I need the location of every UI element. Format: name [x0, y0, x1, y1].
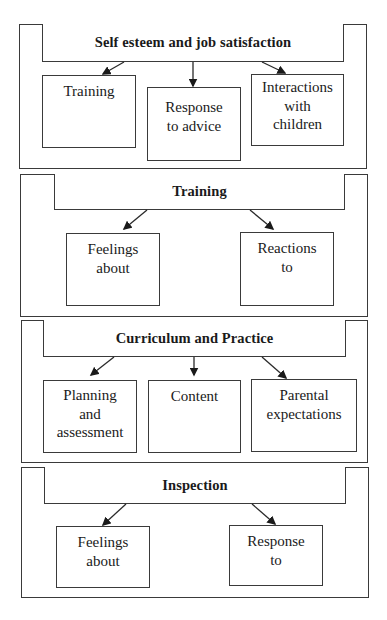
panel-training-title: Training	[172, 183, 227, 200]
node-parental-expectations: Parental expectations	[251, 379, 357, 452]
node-label: with	[252, 97, 343, 116]
node-label: Response	[148, 98, 240, 117]
node-label: Interactions	[252, 78, 343, 97]
node-label: assessment	[44, 423, 136, 442]
panel-training-header: Training	[54, 174, 345, 210]
panel-curriculum-header: Curriculum and Practice	[43, 320, 346, 357]
node-label: Response	[230, 532, 322, 551]
node-label: Feelings	[57, 533, 149, 552]
node-label: Training	[43, 82, 135, 101]
panel-self-esteem-header: Self esteem and job satisfaction	[42, 24, 344, 62]
node-label: Planning	[44, 386, 136, 405]
node-planning-and-assessment: Planning and assessment	[43, 380, 137, 453]
node-label: to	[241, 258, 333, 277]
panel-inspection-title: Inspection	[162, 477, 227, 494]
node-reactions-to: Reactions to	[240, 232, 334, 306]
panel-inspection-header: Inspection	[44, 467, 346, 504]
node-label: Content	[149, 387, 240, 406]
node-label: to	[230, 551, 322, 570]
node-response-to-advice: Response to advice	[147, 87, 241, 161]
node-content: Content	[148, 380, 241, 453]
node-response-to: Response to	[229, 525, 323, 586]
node-label: Parental	[252, 386, 356, 405]
node-feelings-about-training: Feelings about	[66, 233, 160, 306]
node-label: Feelings	[67, 240, 159, 259]
panel-self-esteem-title: Self esteem and job satisfaction	[95, 34, 292, 51]
node-label: to advice	[148, 117, 240, 136]
node-interactions-with-children: Interactions with children	[251, 74, 344, 146]
node-label: children	[252, 115, 343, 134]
node-label: Reactions	[241, 239, 333, 258]
panel-curriculum-title: Curriculum and Practice	[116, 330, 274, 347]
node-label: about	[67, 259, 159, 278]
node-feelings-about-inspection: Feelings about	[56, 526, 150, 588]
node-label: expectations	[252, 405, 356, 424]
node-label: and	[44, 405, 136, 424]
node-label: about	[57, 552, 149, 571]
node-training: Training	[42, 75, 136, 148]
